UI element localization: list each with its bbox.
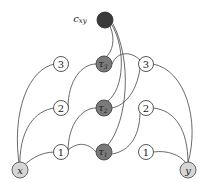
edge-r2-y [153,108,188,163]
svg-text:2: 2 [58,103,64,114]
edge-tau2-r3 [112,68,140,108]
edge-r3-y [153,64,192,163]
node-right-3: 3 [139,57,154,72]
node-right-2: 2 [139,101,154,116]
graph-diagram: cxy τ3 τ2 τ1 3 2 1 3 2 1 x y [0,0,208,191]
svg-text:3: 3 [143,59,149,70]
edge-tau1-r2 [112,112,140,154]
svg-text:y: y [184,165,191,176]
edge-r1-y [153,152,186,163]
node-x: x [12,162,28,178]
svg-text:1: 1 [58,147,64,158]
edge-l1-tau1 [68,144,96,152]
node-left-1: 1 [54,145,69,160]
svg-text:x: x [17,165,23,176]
node-tau3: τ3 [96,56,112,72]
edge-cxy-tau1 [108,24,125,145]
node-cxy: cxy [73,12,113,28]
node-y: y [180,162,196,178]
edge-cxy-tau3 [106,26,113,57]
node-tau1: τ1 [96,144,112,160]
node-left-3: 3 [54,57,69,72]
node-right-1: 1 [139,145,154,160]
edge-l1-tau2 [68,108,96,152]
svg-text:2: 2 [143,103,149,114]
edge-x-l3 [17,64,55,170]
svg-text:3: 3 [58,59,64,70]
edge-l2-tau3 [68,64,96,108]
node-tau2: τ2 [96,100,112,116]
svg-text:1: 1 [143,147,149,158]
cxy-sub: xy [79,17,88,25]
edge-tau3-r3 [112,54,140,64]
edge-x-l2 [20,108,55,170]
node-left-2: 2 [54,101,69,116]
svg-text:cxy: cxy [73,13,88,26]
